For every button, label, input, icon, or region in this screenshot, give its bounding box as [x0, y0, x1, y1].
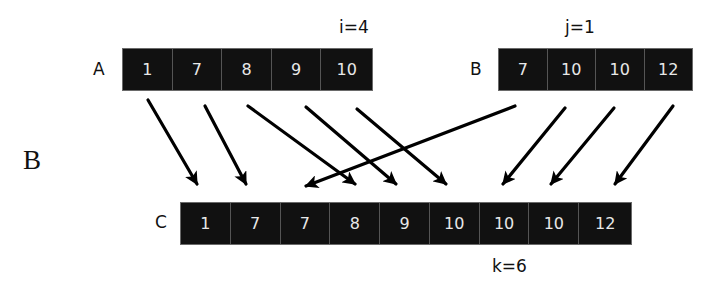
- arrow-icon: [551, 108, 614, 184]
- arrow-icon: [615, 106, 673, 184]
- arrow-icon: [148, 100, 197, 184]
- arrow-icon: [503, 108, 565, 184]
- arrow-icon: [205, 106, 246, 184]
- arrow-icon: [306, 107, 396, 184]
- arrow-icon: [357, 109, 446, 184]
- arrow-icon: [306, 106, 515, 186]
- merge-arrows: [0, 0, 725, 287]
